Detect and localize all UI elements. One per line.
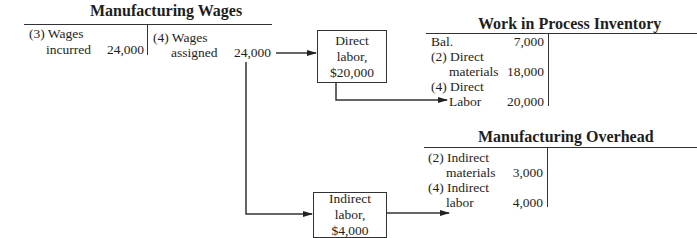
wip-entry-label: materials bbox=[449, 64, 498, 80]
wip-entry-label: Bal. bbox=[431, 34, 453, 50]
moh-entry-amount: 4,000 bbox=[498, 195, 543, 211]
wip-entry-label: (4) Direct bbox=[431, 79, 484, 95]
moh-entry-label: materials bbox=[446, 165, 495, 181]
wip-title: Work in Process Inventory bbox=[478, 15, 661, 33]
wip-divider bbox=[548, 33, 549, 106]
arrow-to-indirect-labor bbox=[246, 62, 312, 214]
wip-entry-label: Labor bbox=[449, 94, 481, 110]
direct-labor-amount: $20,000 bbox=[330, 65, 374, 81]
direct-labor-line2: labor, bbox=[330, 49, 374, 65]
direct-labor-line1: Direct bbox=[330, 33, 374, 49]
wip-top-line bbox=[426, 33, 697, 34]
moh-entry-label: labor bbox=[446, 195, 474, 211]
wip-entry-label: (2) Direct bbox=[431, 49, 484, 65]
moh-entry-amount: 3,000 bbox=[498, 165, 543, 181]
indirect-labor-line1: Indirect bbox=[329, 191, 371, 207]
moh-title: Manufacturing Overhead bbox=[478, 128, 654, 146]
wip-entry-amount: 18,000 bbox=[495, 64, 544, 80]
indirect-labor-box: Indirect labor, $4,000 bbox=[313, 192, 387, 238]
indirect-labor-line2: labor, bbox=[329, 207, 371, 223]
indirect-labor-amount: $4,000 bbox=[329, 223, 371, 238]
moh-entry-label: (2) Indirect bbox=[428, 150, 489, 166]
moh-entry-label: (4) Indirect bbox=[428, 180, 489, 196]
wip-entry-amount: 20,000 bbox=[495, 94, 544, 110]
wip-entry-amount: 7,000 bbox=[495, 34, 544, 50]
moh-top-line bbox=[424, 147, 697, 148]
direct-labor-box: Direct labor, $20,000 bbox=[317, 30, 387, 83]
moh-divider bbox=[547, 147, 548, 207]
